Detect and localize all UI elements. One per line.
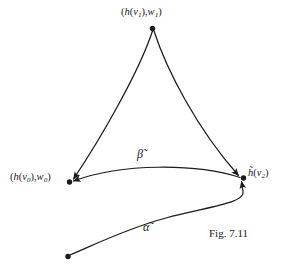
figure-container: (h(v1),w1) (h(v0),w0) h̃(v2) β̃ α̃ Fig. …	[0, 0, 284, 273]
label-beta-curve: β̃	[137, 148, 143, 160]
figure-caption: Fig. 7.11	[209, 227, 248, 239]
vertex-dot-top	[150, 26, 155, 31]
label-top-vertex: (h(v1),w1)	[121, 7, 162, 19]
vertex-dot-alpha-start	[65, 254, 70, 259]
label-alpha-curve: α̃	[143, 221, 149, 233]
curve-beta	[74, 167, 241, 181]
label-left-vertex: (h(v0),w0)	[10, 172, 51, 184]
vertex-dot-left	[67, 179, 72, 184]
label-right-vertex: h̃(v2)	[248, 168, 268, 180]
curve-alpha	[70, 182, 243, 256]
vertex-dot-right	[241, 175, 246, 180]
curve-right-side	[154, 31, 239, 176]
